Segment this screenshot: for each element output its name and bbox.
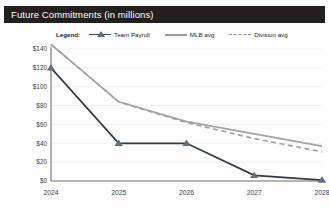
legend-item-division-avg[interactable]: Division avg [229, 31, 287, 38]
legend-item-team-payroll[interactable]: Team Payroll [89, 31, 150, 38]
x-axis-tick-label: 2027 [247, 189, 262, 196]
x-axis-tick-label: 2026 [179, 189, 194, 196]
series-line-mlb-avg [51, 44, 322, 146]
y-axis-tick-label: $80 [36, 102, 47, 109]
chart-title-bar: Future Commitments (in millions) [4, 6, 325, 23]
legend-item-label: Team Payroll [114, 31, 150, 38]
x-axis-tick-label: 2025 [111, 189, 126, 196]
legend-item-label: Division avg [254, 31, 287, 38]
y-axis-tick-label: $140 [33, 45, 48, 52]
line-chart-svg: $0$20$40$60$80$100$120$140 2024202520262… [0, 40, 329, 209]
y-axis-tick-label: $60 [36, 121, 47, 128]
data-series-group [51, 44, 322, 180]
x-axis-tick-label: 2028 [314, 189, 329, 196]
chart-legend: Legend: Team Payroll MLB avg Division av… [56, 29, 324, 40]
legend-item-mlb-avg[interactable]: MLB avg [165, 31, 214, 38]
chart-panel: Future Commitments (in millions) Legend:… [0, 0, 329, 209]
line-swatch-icon [165, 31, 187, 38]
dashed-line-swatch-icon [229, 31, 251, 38]
y-axis-tick-label: $120 [33, 64, 48, 71]
data-point-marker [47, 64, 55, 70]
series-line-division-avg [51, 44, 322, 151]
y-axis-tick-label: $0 [40, 177, 48, 184]
y-axis-tick-label: $40 [36, 140, 47, 147]
x-axis-tick-label: 2024 [43, 189, 58, 196]
triangle-marker-icon [89, 31, 111, 38]
series-line-team-payroll [51, 68, 322, 180]
y-axis-tick-label: $100 [33, 83, 48, 90]
legend-item-label: MLB avg [190, 31, 214, 38]
data-point-markers [47, 64, 326, 183]
x-axis-tick-labels: 20242025202620272028 [43, 189, 329, 196]
legend-label: Legend: [56, 31, 80, 38]
y-axis-tick-labels: $0$20$40$60$80$100$120$140 [33, 45, 48, 184]
y-axis-tick-label: $20 [36, 158, 47, 165]
page-title: Future Commitments (in millions) [4, 9, 154, 20]
chart-plot-area: $0$20$40$60$80$100$120$140 2024202520262… [0, 40, 329, 209]
